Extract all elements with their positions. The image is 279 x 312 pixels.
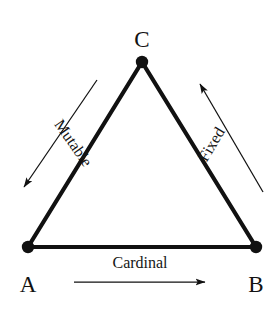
annotation-cardinal: Cardinal — [74, 254, 205, 282]
annotation-fixed: Fixed — [195, 84, 263, 192]
vertex-label-a: A — [20, 272, 37, 297]
triangle-diagram: C A B Mutable Fixed Cardinal — [0, 0, 279, 312]
diagram-canvas: C A B Mutable Fixed Cardinal — [0, 0, 279, 312]
vertex-label-c: C — [134, 27, 149, 52]
annotation-mutable: Mutable — [24, 80, 97, 187]
fixed-label: Fixed — [195, 124, 228, 164]
cardinal-label: Cardinal — [112, 254, 168, 271]
vertex-dot-b — [250, 241, 262, 253]
triangle-edges — [28, 62, 256, 247]
vertex-dot-c — [136, 56, 148, 68]
vertex-label-b: B — [248, 272, 263, 297]
mutable-label: Mutable — [51, 116, 96, 169]
triangle-vertices — [22, 56, 262, 253]
vertex-dot-a — [22, 241, 34, 253]
